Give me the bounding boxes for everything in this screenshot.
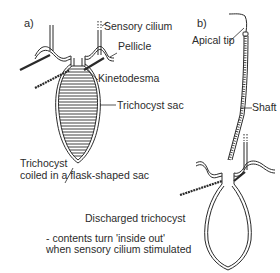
label-kinetodesma: Kinetodesma (98, 73, 159, 84)
label-shaft: Shaft (252, 102, 277, 113)
panel-a-label: a) (24, 18, 34, 29)
shaft-b (228, 36, 252, 160)
label-discharged-trichocyst: Discharged trichocyst (85, 213, 185, 224)
kinetodesmal-fibres-b (180, 172, 245, 195)
trichocyst-diagram: a) b) Sensory cilium Pellicle Kinetodesm… (0, 0, 280, 273)
left-cilium-a (50, 25, 53, 51)
discharged-sac-b (205, 173, 252, 270)
panel-b-label: b) (197, 18, 207, 29)
caption-trichocyst: Trichocyst (20, 158, 67, 169)
caption-coiled: coiled in a flask-shaped sac (20, 170, 149, 181)
label-pellicle: Pellicle (118, 41, 151, 52)
label-sensory-cilium: Sensory cilium (104, 21, 172, 32)
label-apical-tip: Apical tip (192, 35, 235, 46)
note-stimulated: when sensory cilium stimulated (46, 244, 191, 255)
kinetodesmal-fibres-a (20, 55, 104, 88)
label-trichocyst-sac: Trichocyst sac (117, 100, 184, 111)
sac-neck-a (71, 56, 85, 66)
trichocyst-sac-a (56, 64, 101, 163)
pellicle-b (196, 161, 275, 178)
